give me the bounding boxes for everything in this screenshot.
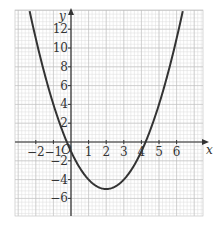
grid: [15, 10, 203, 216]
y-tick-label: 8: [60, 60, 68, 74]
y-tick-label: −6: [50, 191, 68, 205]
x-tick-label: −2: [27, 145, 45, 159]
x-tick-label: 3: [120, 145, 128, 159]
x-axis-label: x: [206, 143, 213, 157]
x-tick-label: 5: [155, 145, 163, 159]
origin-label: O: [61, 142, 72, 157]
x-tick-label: 1: [85, 145, 93, 159]
x-tick-label: 6: [173, 145, 181, 159]
parabola-chart: −2−112345612108642−2−4−6 x y O: [0, 0, 214, 228]
y-tick-label: 4: [60, 97, 68, 111]
y-tick-label: 6: [60, 79, 68, 93]
y-tick-label: 12: [53, 22, 68, 36]
y-tick-label: 10: [53, 41, 68, 55]
y-tick-label: −4: [50, 173, 68, 187]
y-axis-label: y: [58, 9, 66, 23]
x-tick-label: 2: [102, 145, 110, 159]
